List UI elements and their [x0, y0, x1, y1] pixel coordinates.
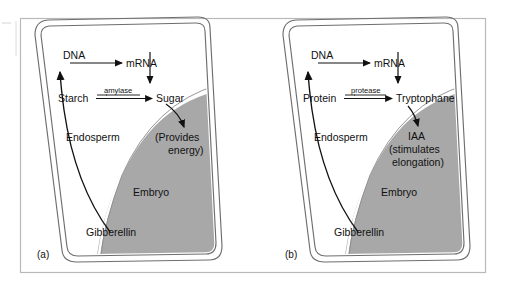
label-dna-b: DNA [311, 49, 333, 61]
label-endosperm-b: Endosperm [314, 131, 368, 143]
label-dna-a: DNA [63, 49, 85, 61]
caption-a: (a) [37, 249, 49, 260]
panel-b: DNA mRNA Protein protease Tryptophane IA… [283, 17, 480, 262]
label-energy-a: energy) [168, 144, 204, 156]
label-embryo-a: Embryo [133, 186, 169, 198]
label-embryo-b: Embryo [381, 186, 417, 198]
caption-b: (b) [285, 249, 297, 260]
label-gibberellin-a: Gibberellin [86, 226, 136, 238]
label-starch-a: Starch [58, 92, 89, 104]
label-protein-b: Protein [303, 92, 336, 104]
label-endosperm-a: Endosperm [66, 131, 120, 143]
label-elongation-b: elongation) [392, 156, 444, 168]
label-protease-b: protease [351, 86, 381, 95]
label-amylase-a: amylase [104, 86, 132, 95]
label-gibberellin-b: Gibberellin [334, 226, 384, 238]
label-mrna-b: mRNA [374, 57, 405, 69]
label-tryptophane-b: Tryptophane [396, 92, 455, 104]
label-sugar-a: Sugar [156, 92, 185, 104]
label-mrna-a: mRNA [126, 57, 157, 69]
panel-a: Sugar --> DNA mRNA Starch amylase Sugar … [35, 17, 232, 262]
diagram-svg: Sugar --> DNA mRNA Starch amylase Sugar … [0, 0, 505, 292]
label-stimulates-b: (stimulates [389, 143, 440, 155]
figure-canvas: Sugar --> DNA mRNA Starch amylase Sugar … [0, 0, 505, 292]
label-iaa-b: IAA [408, 130, 425, 142]
label-provides-a: (Provides [155, 131, 199, 143]
